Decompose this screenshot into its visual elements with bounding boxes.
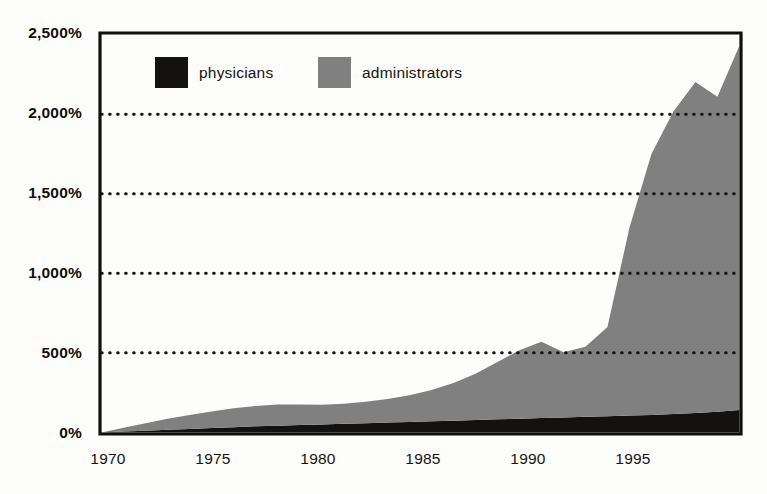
chart-container: 2,500% 2,000% 1,500% 1,000% 500% 0% 1970… <box>0 0 767 494</box>
plot-area <box>0 0 767 494</box>
area-series-group <box>102 46 740 433</box>
area-administrators <box>102 46 740 433</box>
